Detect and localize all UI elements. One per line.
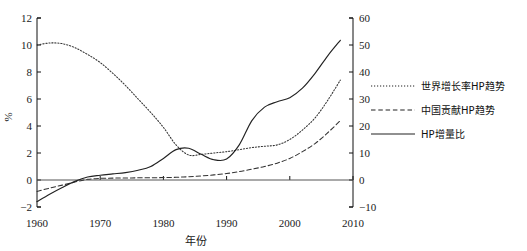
left-tick-label: 2 — [27, 147, 33, 159]
left-tick-label: 12 — [21, 12, 32, 24]
left-tick-label: 6 — [27, 93, 33, 105]
x-tick-label: 1990 — [216, 217, 239, 229]
x-tick-label: 1980 — [152, 217, 175, 229]
right-tick-label: 30 — [359, 93, 371, 105]
chart-figure: 121086420−2 6050403020100−10 19601970198… — [0, 0, 527, 251]
chart-canvas: 121086420−2 6050403020100−10 19601970198… — [0, 0, 527, 251]
legend-label: 世界增长率HP趋势 — [421, 80, 505, 92]
x-tick-label: 1960 — [26, 217, 49, 229]
left-tick-label: 10 — [21, 39, 33, 51]
x-tick-label: 1970 — [89, 217, 112, 229]
left-tick-label: 4 — [27, 120, 33, 132]
right-axis: 6050403020100−10 — [349, 12, 377, 213]
left-tick-label: 0 — [27, 174, 33, 186]
right-tick-label: 0 — [359, 174, 365, 186]
right-tick-label: 60 — [359, 12, 371, 24]
legend-label: 中国贡献HP趋势 — [421, 104, 495, 116]
plot-background — [37, 18, 353, 207]
x-tick-label: 2000 — [279, 217, 302, 229]
x-axis-title: 年份 — [185, 234, 207, 247]
right-tick-label: −10 — [359, 201, 377, 213]
plot-area — [37, 18, 353, 207]
right-tick-label: 50 — [359, 39, 371, 51]
x-tick-label: 2010 — [342, 217, 365, 229]
legend-label: HP增量比 — [421, 128, 465, 140]
chart-legend: 世界增长率HP趋势中国贡献HP趋势HP增量比 — [371, 80, 505, 140]
left-tick-label: −2 — [20, 201, 32, 213]
right-tick-label: 40 — [359, 66, 371, 78]
left-tick-label: 8 — [27, 66, 33, 78]
right-tick-label: 10 — [359, 147, 371, 159]
y-axis-title: % — [2, 112, 14, 121]
right-tick-label: 20 — [359, 120, 371, 132]
